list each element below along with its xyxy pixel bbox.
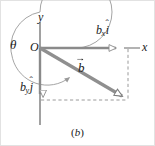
j-hat-icon: ˆj <box>30 81 33 93</box>
label-theta: θ <box>10 38 16 51</box>
label-bx-component: bxˆi <box>96 24 109 38</box>
i-hat-icon: ˆi <box>106 24 109 36</box>
label-by-component: byˆj <box>20 81 33 95</box>
by-subscript: y <box>26 86 30 95</box>
vector-b-symbol: b <box>78 61 85 74</box>
label-origin: O <box>30 41 39 53</box>
theta-angle-arc <box>11 0 112 85</box>
vector-arrow-icon <box>77 56 84 63</box>
label-vector-b: b <box>78 61 85 74</box>
vector-component-figure: θ y O x bxˆi byˆj b (b) <box>0 0 155 146</box>
label-x-axis: x <box>142 41 147 53</box>
bx-subscript: x <box>102 29 106 38</box>
figure-caption: (b) <box>0 126 155 138</box>
label-y-axis: y <box>38 11 43 23</box>
